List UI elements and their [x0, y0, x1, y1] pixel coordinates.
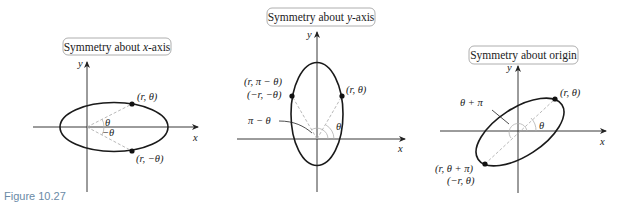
point: [482, 161, 487, 166]
x-axis-label: x: [192, 132, 198, 143]
figure-caption: Figure 10.27: [4, 190, 66, 202]
y-axis-label: y: [306, 29, 312, 40]
radius-dashed: [292, 96, 317, 139]
panel-x-axis-symmetry: Symmetry about x-axis y x θ −θ (r, θ) (r…: [33, 38, 198, 192]
point-label: (r, −θ): [136, 153, 164, 165]
angle-label: −θ: [102, 127, 114, 138]
angle-arc: [102, 119, 104, 127]
panel-origin-symmetry: Symmetry about origin y x θ θ + π (r, θ)…: [435, 46, 606, 193]
angle-label: θ + π: [460, 97, 483, 108]
point-label: (r, θ): [137, 91, 158, 103]
point-label: (r, θ + π): [435, 163, 473, 175]
point: [129, 101, 134, 106]
angle-label: θ: [336, 121, 341, 132]
panel-title: Symmetry about origin: [470, 49, 577, 62]
y-axis-label: y: [77, 58, 83, 69]
angle-arc: [531, 118, 536, 131]
point-label: (−r, θ): [447, 175, 475, 187]
symmetry-figure: Symmetry about x-axis y x θ −θ (r, θ) (r…: [0, 0, 637, 207]
panel-title: Symmetry about x-axis: [64, 41, 171, 54]
angle-label: π − θ: [248, 115, 271, 126]
point: [129, 148, 134, 153]
radius-dashed: [485, 99, 555, 164]
x-axis-label: x: [397, 143, 403, 154]
point-label: (−r, −θ): [247, 89, 282, 101]
angle-arc: [326, 125, 334, 139]
point: [289, 93, 294, 98]
y-axis-label: y: [506, 62, 512, 73]
angle-label: θ: [539, 120, 544, 131]
panel-y-axis-symmetry: Symmetry about y-axis y x θ π − θ (r, θ)…: [237, 8, 405, 192]
point-label: (r, θ): [346, 84, 367, 96]
point-label: (r, π − θ): [244, 76, 282, 88]
point: [339, 93, 344, 98]
point-label: (r, θ): [560, 87, 581, 99]
point: [552, 96, 557, 101]
leader-line: [279, 121, 312, 133]
radius-dashed: [317, 96, 342, 139]
panel-title: Symmetry about y-axis: [268, 11, 375, 24]
x-axis-label: x: [599, 136, 605, 147]
